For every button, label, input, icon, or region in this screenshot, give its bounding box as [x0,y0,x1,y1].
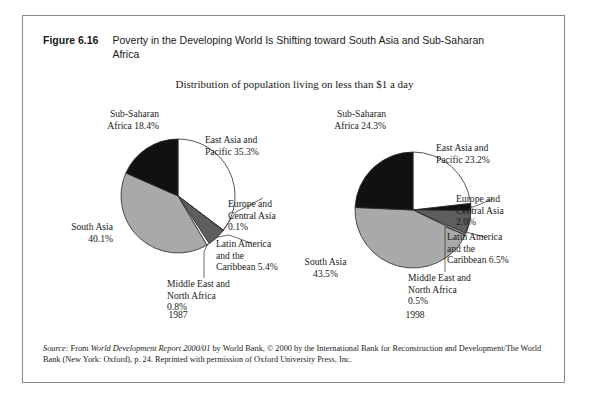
pie1-label-middle-east: Middle East and North Africa 0.8% [167,278,277,313]
pie2-label-middle-east: Middle East and North Africa 0.5% [408,272,518,307]
source-note: Source: From World Development Report 20… [43,343,548,366]
source-title-italic: World Development Report 2000/01 [91,344,211,353]
pie2-label-south-asia: South Asia 43.5% [278,256,373,279]
pie1-label-south-asia: South Asia 40.1% [28,221,113,244]
pie2-year-label: 1998 [385,309,445,320]
charts-container: Sub-Saharan Africa 18.4% East Asia and P… [23,16,566,384]
pie2-label-east-asia: East Asia and Pacific 23.2% [436,142,546,165]
pie2-label-europe-central-asia: Europe and Central Asia 2.0% [456,193,556,228]
source-text-1: From [69,344,91,353]
figure-frame: Figure 6.16 Poverty in the Developing Wo… [22,15,565,383]
source-label: Source: [43,344,69,353]
pie1-label-east-asia: East Asia and Pacific 35.3% [205,134,315,157]
pie2-label-latin-america: Latin America and the Caribbean 6.5% [447,231,557,266]
pie-slice [355,152,413,210]
pie1-label-europe-central-asia: Europe and Central Asia 0.1% [228,198,328,233]
pie1-year-label: 1987 [148,309,208,320]
pie2-label-sub-saharan: Sub-Saharan Africa 24.3% [276,108,386,131]
pie1-label-sub-saharan: Sub-Saharan Africa 18.4% [49,108,159,131]
